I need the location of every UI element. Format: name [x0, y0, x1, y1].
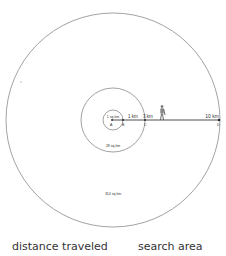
stray-dot [20, 81, 21, 82]
point-d-dot [218, 119, 220, 121]
point-b-label: B [122, 123, 125, 127]
large-radius-label: 10 km [205, 113, 219, 119]
middle-area-label: 28 sq km [106, 144, 120, 148]
large-area-label: 314 sq km [105, 192, 121, 196]
point-c-dot [144, 119, 146, 121]
small-area-label: 1 sq km [107, 115, 119, 119]
point-a-label: A [110, 123, 113, 127]
point-a-dot [111, 119, 113, 121]
point-b-dot [122, 119, 124, 121]
point-c-label: C [144, 123, 147, 127]
caption-search-area: search area [138, 240, 203, 253]
hiker-icon [160, 105, 165, 120]
caption-distance-traveled: distance traveled [12, 240, 108, 253]
search-area-diagram: A B C D 1 sq km 1 km 3 km 10 km 28 sq km… [0, 0, 226, 256]
middle-radius-label: 3 km [143, 114, 153, 119]
small-radius-label: 1 km [128, 114, 138, 119]
